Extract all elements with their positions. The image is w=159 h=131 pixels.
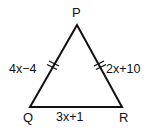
vertex-label-p: P	[72, 6, 81, 19]
vertex-label-r: R	[119, 111, 128, 124]
side-label-pq: 4x−4	[9, 63, 36, 76]
vertex-label-q: Q	[23, 111, 33, 124]
side-label-pr: 2x+10	[106, 63, 140, 76]
side-label-qr: 3x+1	[56, 111, 83, 124]
triangle-diagram: P Q R 4x−4 2x+10 3x+1	[0, 0, 159, 131]
